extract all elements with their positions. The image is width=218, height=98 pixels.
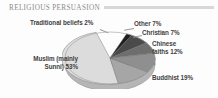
slice-label-chinese-line1: Chinese <box>152 40 176 47</box>
slice-label-muslim-line2: Sunni) 53% <box>6 63 78 71</box>
page-title: RELIGIOUS PERSUASION <box>9 4 100 12</box>
chart-header: RELIGIOUS PERSUASION <box>9 2 214 13</box>
slice-label-traditional: Traditional beliefs 2% <box>30 19 93 27</box>
slice-label-chinese-line2: faiths 12% <box>152 48 183 56</box>
slice-label-chinese: Chinese faiths 12% <box>152 40 183 55</box>
title-divider <box>104 6 214 9</box>
chart-figure: RELIGIOUS PERSUASION <box>0 0 218 98</box>
slice-label-christian: Christian 7% <box>142 29 180 37</box>
slice-label-buddhist: Buddhist 19% <box>152 74 193 82</box>
slice-label-other: Other 7% <box>134 20 161 28</box>
slice-label-muslim: Muslim (mainly Sunni) 53% <box>6 55 78 70</box>
slice-label-muslim-line1: Muslim (mainly <box>33 55 78 62</box>
